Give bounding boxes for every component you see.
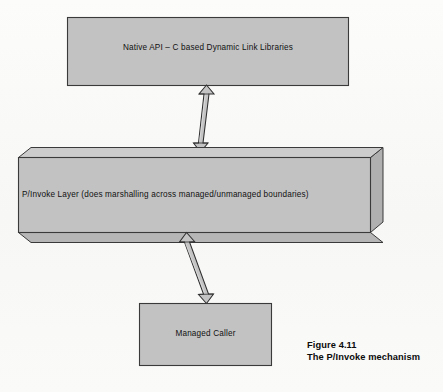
- lower-arrow: [180, 233, 214, 304]
- pinvoke-layer-box-label: P/Invoke Layer (does marshalling across …: [22, 190, 367, 199]
- figure-caption: Figure 4.11 The P/Invoke mechanism: [307, 339, 420, 364]
- upper-arrow-body: [194, 85, 215, 152]
- lower-arrow-head-bottom-notch: [199, 294, 214, 295]
- lower-arrow-body: [180, 233, 214, 304]
- pinvoke-layer-right-face: [371, 148, 384, 233]
- figure-caption-title: The P/Invoke mechanism: [307, 351, 420, 363]
- lower-arrow-highlight: [186, 243, 205, 292]
- native-api-box-label: Native API – C based Dynamic Link Librar…: [67, 43, 349, 52]
- upper-arrow: [194, 85, 215, 152]
- figure-caption-number: Figure 4.11: [307, 339, 420, 351]
- pinvoke-layer-bottom-face: [19, 233, 384, 243]
- figure-pinvoke-mechanism: Native API – C based Dynamic Link Librar…: [0, 0, 443, 392]
- managed-caller-box-label: Managed Caller: [139, 329, 272, 338]
- pinvoke-layer-top-face: [19, 148, 384, 158]
